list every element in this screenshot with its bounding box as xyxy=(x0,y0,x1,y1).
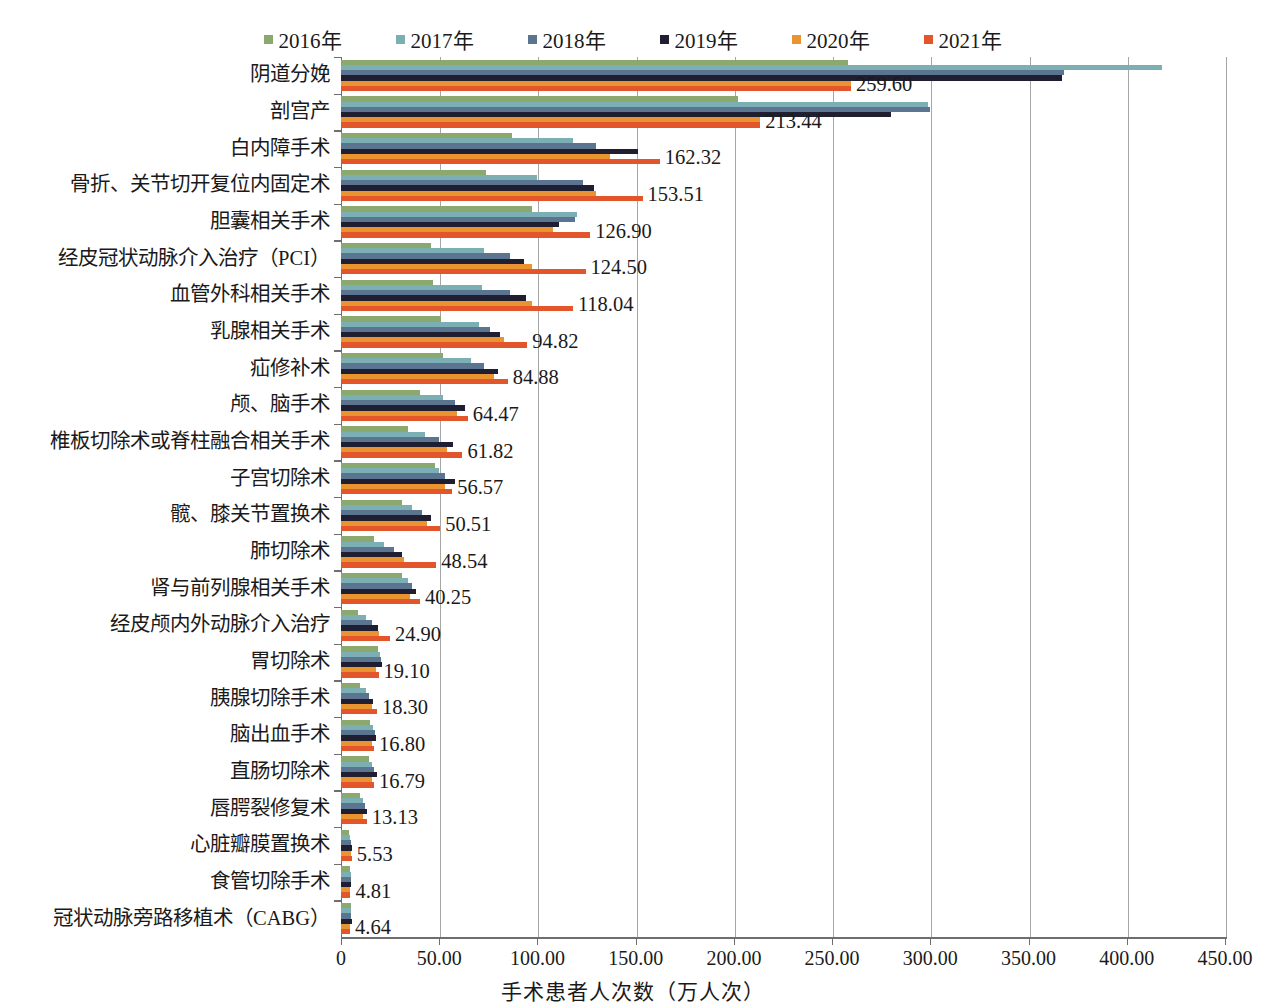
bar-2021年[interactable] xyxy=(341,856,352,861)
category-label: 血管外科相关手术 xyxy=(0,284,330,305)
y-tick xyxy=(334,497,341,498)
x-axis-line xyxy=(341,937,1227,939)
bar-data-label: 50.51 xyxy=(445,514,491,535)
legend-item-2016年[interactable]: 2016年 xyxy=(264,24,342,54)
chart-row: 食管切除手术4.81 xyxy=(0,864,1265,901)
bar-data-label: 18.30 xyxy=(382,697,428,718)
bar-2021年[interactable] xyxy=(341,526,440,531)
category-label: 剖宫产 xyxy=(0,101,330,122)
bar-2021年[interactable] xyxy=(341,269,586,274)
legend-item-2018年[interactable]: 2018年 xyxy=(528,24,606,54)
bar-2021年[interactable] xyxy=(341,489,452,494)
bar-2021年[interactable] xyxy=(341,636,390,641)
y-tick xyxy=(334,570,341,571)
bar-2021年[interactable] xyxy=(341,306,573,311)
x-tick-label: 150.00 xyxy=(608,947,663,970)
legend-label: 2019年 xyxy=(675,24,738,54)
bar-2021年[interactable] xyxy=(341,232,590,237)
bar-2021年[interactable] xyxy=(341,562,436,567)
x-tick xyxy=(930,937,931,945)
bar-2021年[interactable] xyxy=(341,672,379,677)
legend-item-2020年[interactable]: 2020年 xyxy=(792,24,870,54)
x-tick xyxy=(1029,937,1030,945)
bar-2021年[interactable] xyxy=(341,122,760,127)
x-tick xyxy=(439,937,440,945)
x-tick-label: 350.00 xyxy=(1001,947,1056,970)
bar-data-label: 153.51 xyxy=(648,184,704,205)
chart-row: 肺切除术48.54 xyxy=(0,534,1265,571)
bar-data-label: 16.79 xyxy=(379,771,425,792)
category-label: 颅、脑手术 xyxy=(0,394,330,415)
bar-data-label: 40.25 xyxy=(425,587,471,608)
bar-2021年[interactable] xyxy=(341,416,468,421)
legend-swatch-icon xyxy=(660,35,669,44)
chart-row: 脑出血手术16.80 xyxy=(0,717,1265,754)
bar-2021年[interactable] xyxy=(341,86,851,91)
chart-row: 椎板切除术或脊柱融合相关手术61.82 xyxy=(0,424,1265,461)
bar-chart: 2016年2017年2018年2019年2020年2021年 050.00100… xyxy=(0,0,1265,1008)
bar-2021年[interactable] xyxy=(341,819,367,824)
chart-row: 肾与前列腺相关手术40.25 xyxy=(0,570,1265,607)
chart-row: 剖宫产213.44 xyxy=(0,94,1265,131)
chart-row: 阴道分娩259.60 xyxy=(0,57,1265,94)
y-tick xyxy=(334,314,341,315)
chart-row: 乳腺相关手术94.82 xyxy=(0,314,1265,351)
y-tick xyxy=(334,350,341,351)
x-tick-label: 300.00 xyxy=(903,947,958,970)
bar-2021年[interactable] xyxy=(341,746,374,751)
legend-swatch-icon xyxy=(528,35,537,44)
chart-row: 颅、脑手术64.47 xyxy=(0,387,1265,424)
chart-row: 心脏瓣膜置换术5.53 xyxy=(0,827,1265,864)
bar-data-label: 13.13 xyxy=(372,807,418,828)
chart-row: 髋、膝关节置换术50.51 xyxy=(0,497,1265,534)
x-tick-label: 0 xyxy=(336,947,346,970)
category-label: 子宫切除术 xyxy=(0,468,330,489)
y-tick xyxy=(334,790,341,791)
legend-item-2017年[interactable]: 2017年 xyxy=(396,24,474,54)
x-tick-label: 250.00 xyxy=(805,947,860,970)
legend-label: 2017年 xyxy=(411,24,474,54)
y-tick xyxy=(334,717,341,718)
x-tick xyxy=(341,937,342,945)
x-tick-label: 200.00 xyxy=(706,947,761,970)
bar-2021年[interactable] xyxy=(341,196,643,201)
x-tick xyxy=(734,937,735,945)
bar-2021年[interactable] xyxy=(341,159,660,164)
y-tick xyxy=(334,94,341,95)
chart-row: 唇腭裂修复术13.13 xyxy=(0,790,1265,827)
category-label: 疝修补术 xyxy=(0,358,330,379)
y-tick xyxy=(334,827,341,828)
bar-data-label: 24.90 xyxy=(395,624,441,645)
bar-2021年[interactable] xyxy=(341,342,527,347)
y-tick xyxy=(334,167,341,168)
y-tick xyxy=(334,754,341,755)
category-label: 肾与前列腺相关手术 xyxy=(0,578,330,599)
category-label: 椎板切除术或脊柱融合相关手术 xyxy=(0,431,330,452)
bar-2021年[interactable] xyxy=(341,929,350,934)
legend-item-2019年[interactable]: 2019年 xyxy=(660,24,738,54)
category-label: 骨折、关节切开复位内固定术 xyxy=(0,174,330,195)
x-tick-label: 450.00 xyxy=(1198,947,1253,970)
y-tick xyxy=(334,204,341,205)
category-label: 食管切除手术 xyxy=(0,871,330,892)
bar-2021年[interactable] xyxy=(341,709,377,714)
chart-row: 疝修补术84.88 xyxy=(0,350,1265,387)
legend-swatch-icon xyxy=(264,35,273,44)
legend-item-2021年[interactable]: 2021年 xyxy=(924,24,1002,54)
y-tick xyxy=(334,57,341,58)
bar-2021年[interactable] xyxy=(341,599,420,604)
bar-data-label: 64.47 xyxy=(473,404,519,425)
x-tick-label: 400.00 xyxy=(1099,947,1154,970)
x-tick xyxy=(1127,937,1128,945)
category-label: 心脏瓣膜置换术 xyxy=(0,834,330,855)
x-tick xyxy=(537,937,538,945)
bar-2021年[interactable] xyxy=(341,892,350,897)
bar-2021年[interactable] xyxy=(341,782,374,787)
bar-2021年[interactable] xyxy=(341,379,508,384)
bar-data-label: 94.82 xyxy=(532,331,578,352)
bar-data-label: 213.44 xyxy=(765,111,821,132)
category-label: 冠状动脉旁路移植术（CABG） xyxy=(0,908,330,929)
bar-2021年[interactable] xyxy=(341,452,462,457)
chart-row: 直肠切除术16.79 xyxy=(0,754,1265,791)
y-tick xyxy=(334,607,341,608)
